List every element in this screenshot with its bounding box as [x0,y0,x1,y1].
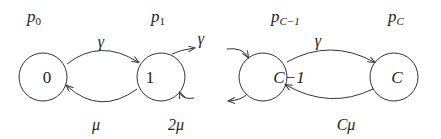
state-1-circle [137,53,185,101]
state-0-label: 0 [43,69,52,86]
arrow-1-out [172,48,194,54]
arrow-in-to-c-minus-1 [227,49,248,57]
rate-label-mu-1-0: μ [92,117,100,133]
prob-label-p0: p0 [27,8,41,27]
prob-label-pc: pC [388,8,404,27]
arrow-1-to-0 [67,86,137,102]
prob-label-p1: p1 [151,8,165,27]
rate-label-gamma-0-1: γ [98,34,104,50]
state-c-minus-1-label: C−1 [273,69,304,86]
arrow-c-minus-1-to-c [287,50,374,62]
rate-label-cmu-c-c-minus-1: Cμ [337,117,356,133]
arrow-c-to-c-minus-1 [286,85,373,99]
arrow-0-to-1 [67,50,138,64]
rate-label-2mu-in-1: 2μ [168,117,184,133]
rate-label-gamma-c-minus-1-c: γ [315,33,321,49]
state-1-label: 1 [146,69,155,86]
state-c-label: C [391,69,402,86]
arrow-c-minus-1-out [229,94,247,101]
prob-label-pc-minus-1: pC−1 [271,8,300,27]
rate-label-gamma-1-out: γ [198,31,204,47]
diagram-canvas [0,0,441,139]
arrow-in-to-1 [180,93,194,98]
